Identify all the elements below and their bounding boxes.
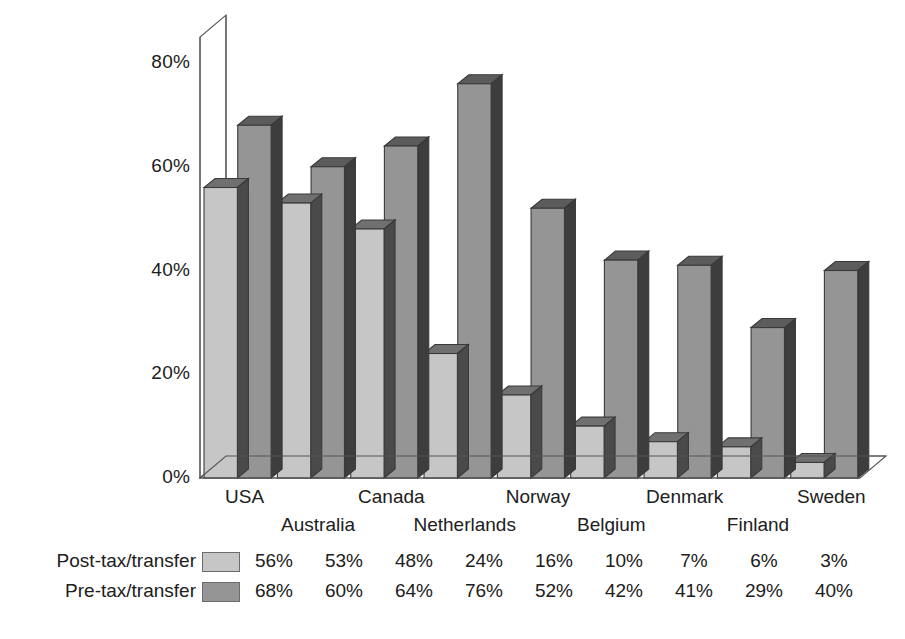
y-axis-tick-60: 60% bbox=[104, 155, 190, 177]
table-cell-pre-usa: 68% bbox=[255, 580, 293, 602]
table-cell-post-canada: 48% bbox=[395, 550, 433, 572]
series-label-post-tax: Post-tax/transfer bbox=[0, 550, 196, 572]
bar-post-tax-norway bbox=[497, 386, 541, 478]
bar-post-tax-denmark bbox=[644, 433, 688, 478]
x-axis-label-sweden: Sweden bbox=[797, 486, 866, 508]
y-axis-tick-40: 40% bbox=[104, 259, 190, 281]
y-axis-tick-0: 0% bbox=[104, 466, 190, 488]
table-cell-post-usa: 56% bbox=[255, 550, 293, 572]
y-axis-tick-80: 80% bbox=[104, 51, 190, 73]
x-axis-label-usa: USA bbox=[225, 486, 264, 508]
x-axis-label-belgium: Belgium bbox=[577, 514, 646, 536]
table-cell-pre-sweden: 40% bbox=[815, 580, 853, 602]
table-cell-pre-finland: 29% bbox=[745, 580, 783, 602]
x-axis-label-norway: Norway bbox=[506, 486, 570, 508]
table-cell-pre-norway: 52% bbox=[535, 580, 573, 602]
table-cell-post-belgium: 10% bbox=[605, 550, 643, 572]
x-axis-label-denmark: Denmark bbox=[646, 486, 723, 508]
bar-post-tax-finland bbox=[717, 438, 761, 478]
x-axis-label-netherlands: Netherlands bbox=[413, 514, 515, 536]
bar-post-tax-belgium bbox=[571, 417, 615, 478]
table-cell-pre-netherlands: 76% bbox=[465, 580, 503, 602]
table-cell-post-australia: 53% bbox=[325, 550, 363, 572]
table-cell-pre-australia: 60% bbox=[325, 580, 363, 602]
x-axis-label-finland: Finland bbox=[727, 514, 789, 536]
bar-post-tax-sweden bbox=[791, 453, 835, 478]
legend-swatch-post-tax bbox=[202, 552, 240, 572]
table-cell-pre-belgium: 42% bbox=[605, 580, 643, 602]
bar-chart-plot bbox=[0, 0, 905, 639]
bar-post-tax-netherlands bbox=[424, 345, 468, 479]
bar-pre-tax-sweden bbox=[824, 262, 868, 479]
table-cell-post-finland: 6% bbox=[750, 550, 777, 572]
table-cell-post-denmark: 7% bbox=[680, 550, 707, 572]
y-axis-tick-20: 20% bbox=[104, 362, 190, 384]
bar-post-tax-usa bbox=[204, 179, 248, 479]
chart-data-table: Post-tax/transfer 56%53%48%24%16%10%7%6%… bbox=[0, 548, 905, 624]
table-cell-post-netherlands: 24% bbox=[465, 550, 503, 572]
series-label-pre-tax: Pre-tax/transfer bbox=[0, 580, 196, 602]
chart-container: 0%20%40%60%80% USAAustraliaCanadaNetherl… bbox=[0, 0, 905, 639]
table-cell-pre-canada: 64% bbox=[395, 580, 433, 602]
bar-post-tax-australia bbox=[277, 194, 321, 478]
x-axis-label-canada: Canada bbox=[358, 486, 425, 508]
bar-post-tax-canada bbox=[351, 220, 395, 478]
table-cell-post-norway: 16% bbox=[535, 550, 573, 572]
table-cell-pre-denmark: 41% bbox=[675, 580, 713, 602]
table-row: Post-tax/transfer 56%53%48%24%16%10%7%6%… bbox=[0, 548, 905, 578]
table-cell-post-sweden: 3% bbox=[820, 550, 847, 572]
table-row: Pre-tax/transfer 68%60%64%76%52%42%41%29… bbox=[0, 578, 905, 608]
x-axis-label-australia: Australia bbox=[281, 514, 355, 536]
legend-swatch-pre-tax bbox=[202, 582, 240, 602]
